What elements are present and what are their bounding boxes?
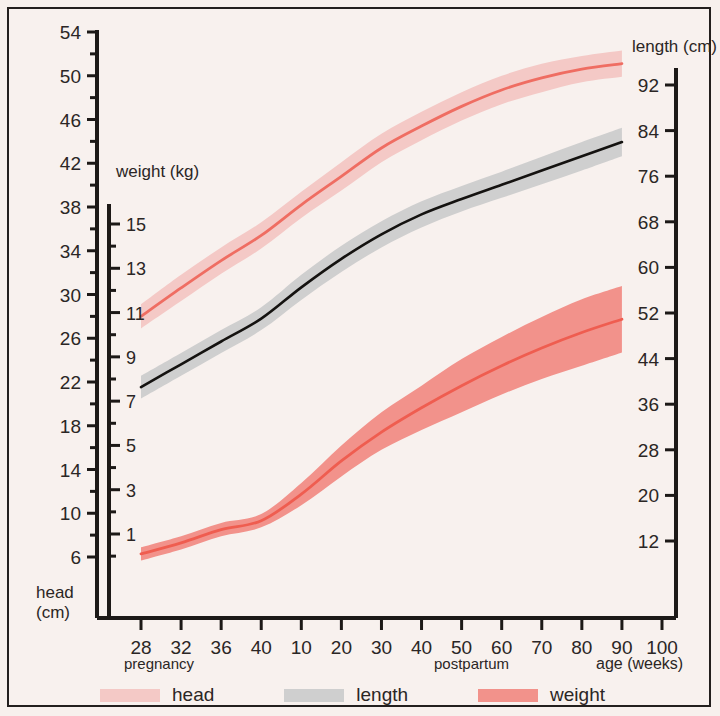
svg-text:13: 13 <box>126 259 146 279</box>
weight-axis-title: weight (kg) <box>116 162 199 182</box>
svg-text:18: 18 <box>60 416 81 437</box>
legend-swatch-weight <box>478 689 538 702</box>
svg-text:68: 68 <box>638 212 659 233</box>
legend-label-head: head <box>172 684 214 706</box>
svg-text:76: 76 <box>638 166 659 187</box>
svg-text:36: 36 <box>211 637 232 658</box>
svg-text:6: 6 <box>70 547 81 568</box>
svg-text:20: 20 <box>638 485 659 506</box>
legend-label-length: length <box>356 684 408 706</box>
length-axis-title: length (cm) <box>632 37 717 57</box>
svg-text:5: 5 <box>126 436 136 456</box>
postpartum-label: postpartum <box>434 655 509 673</box>
pregnancy-label: pregnancy <box>124 655 194 673</box>
svg-text:30: 30 <box>60 285 81 306</box>
legend-item-length: length <box>284 684 408 706</box>
svg-text:22: 22 <box>60 372 81 393</box>
svg-text:10: 10 <box>291 637 312 658</box>
svg-text:38: 38 <box>60 197 81 218</box>
x-axis-title: age (weeks) <box>596 655 683 673</box>
svg-text:44: 44 <box>638 349 660 370</box>
svg-text:26: 26 <box>60 328 81 349</box>
svg-text:34: 34 <box>60 241 82 262</box>
svg-text:12: 12 <box>638 531 659 552</box>
svg-text:3: 3 <box>126 481 136 501</box>
legend-swatch-head <box>100 689 160 702</box>
legend-swatch-length <box>284 689 344 702</box>
confidence-bands <box>141 51 622 561</box>
band-head <box>141 51 622 329</box>
svg-text:28: 28 <box>638 440 659 461</box>
legend-item-weight: weight <box>478 684 605 706</box>
svg-text:14: 14 <box>60 460 82 481</box>
svg-text:7: 7 <box>126 392 136 412</box>
svg-text:50: 50 <box>60 66 81 87</box>
band-weight <box>141 286 622 561</box>
head-axis-title: head (cm) <box>36 583 74 623</box>
svg-text:36: 36 <box>638 394 659 415</box>
svg-text:54: 54 <box>60 22 82 43</box>
svg-text:92: 92 <box>638 75 659 96</box>
growth-chart-figure: 5450464238343026221814106151311975319284… <box>0 0 720 716</box>
svg-text:42: 42 <box>60 153 81 174</box>
svg-text:84: 84 <box>638 121 660 142</box>
svg-text:60: 60 <box>638 257 659 278</box>
svg-text:9: 9 <box>126 348 136 368</box>
svg-text:70: 70 <box>531 637 552 658</box>
svg-text:40: 40 <box>411 637 432 658</box>
svg-text:46: 46 <box>60 110 81 131</box>
growth-chart-svg: 5450464238343026221814106151311975319284… <box>0 0 720 716</box>
svg-text:30: 30 <box>371 637 392 658</box>
legend-label-weight: weight <box>550 684 605 706</box>
legend-item-head: head <box>100 684 214 706</box>
svg-text:1: 1 <box>126 525 136 545</box>
svg-text:52: 52 <box>638 303 659 324</box>
svg-text:80: 80 <box>571 637 592 658</box>
svg-text:10: 10 <box>60 503 81 524</box>
svg-text:11: 11 <box>126 304 145 324</box>
svg-text:40: 40 <box>251 637 272 658</box>
svg-text:20: 20 <box>331 637 352 658</box>
svg-text:15: 15 <box>126 215 146 235</box>
legend: headlengthweight <box>100 684 605 706</box>
